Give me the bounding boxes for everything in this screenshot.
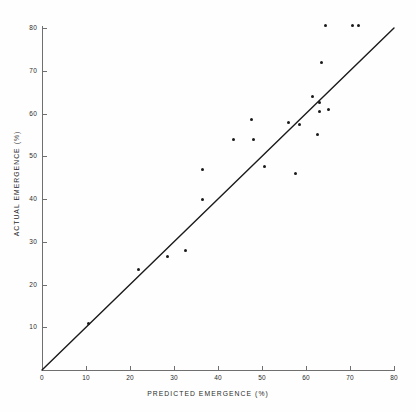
- data-point: [311, 95, 314, 98]
- data-point: [201, 198, 204, 201]
- data-point: [324, 24, 327, 27]
- data-point: [351, 24, 354, 27]
- data-point: [250, 118, 253, 121]
- data-point: [320, 61, 323, 64]
- data-point: [137, 268, 140, 271]
- plot-area: 1020304050607080 01020304050607080 ACTUA…: [0, 0, 416, 412]
- data-point: [357, 24, 360, 27]
- data-point: [166, 255, 169, 258]
- figure: 1020304050607080 01020304050607080 ACTUA…: [0, 0, 416, 412]
- data-point: [318, 110, 321, 113]
- data-point: [184, 249, 187, 252]
- data-point: [87, 322, 90, 325]
- y-axis-title: ACTUAL EMERGENCE (%): [13, 119, 20, 249]
- data-point: [327, 108, 330, 111]
- data-point: [287, 121, 290, 124]
- data-point: [316, 133, 319, 136]
- data-point: [252, 138, 255, 141]
- data-point: [263, 165, 266, 168]
- data-point: [298, 123, 301, 126]
- data-point: [201, 168, 204, 171]
- data-point: [294, 172, 297, 175]
- scatter-points: [0, 0, 416, 412]
- data-point: [318, 101, 321, 104]
- data-point: [232, 138, 235, 141]
- x-axis-title: PREDICTED EMERGENCE (%): [0, 390, 416, 397]
